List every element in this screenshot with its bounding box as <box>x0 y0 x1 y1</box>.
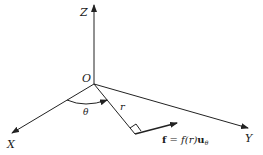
radius-line <box>94 84 135 134</box>
x-axis-label: X <box>6 138 16 151</box>
force-label: f = f(r)uθ <box>162 134 209 146</box>
x-axis <box>12 84 94 133</box>
y-axis <box>94 84 248 128</box>
force-arg: (r) <box>185 134 198 145</box>
origin-label: O <box>82 72 91 85</box>
radius-label: r <box>120 101 126 112</box>
force-equals: = <box>166 134 181 145</box>
coordinate-diagram: Z O X Y θ r f = f(r)uθ <box>0 0 263 155</box>
theta-label: θ <box>83 107 89 117</box>
unit-subscript: θ <box>205 139 209 146</box>
force-vector <box>135 123 177 134</box>
y-axis-label: Y <box>245 132 254 145</box>
unit-vector: u <box>197 134 204 145</box>
theta-arc <box>67 100 107 104</box>
z-axis-label: Z <box>79 6 88 19</box>
